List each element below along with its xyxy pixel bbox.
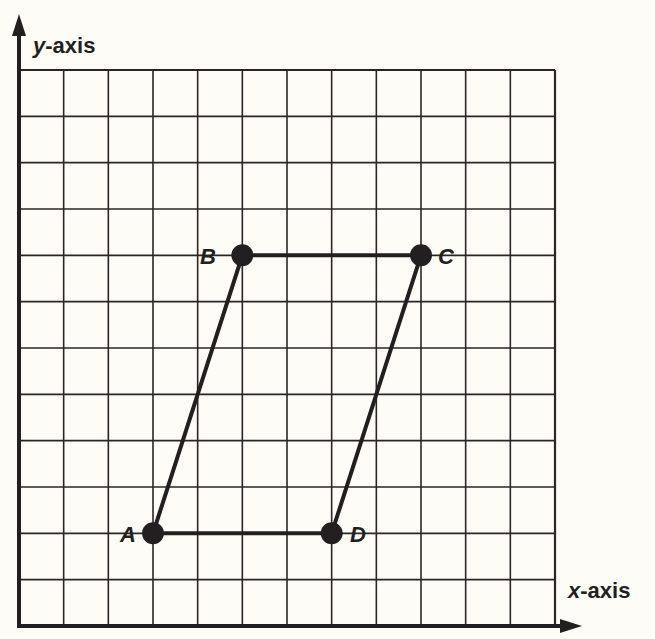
y-axis-label-text: -axis <box>45 33 95 58</box>
point-d-dot <box>321 522 343 544</box>
x-axis <box>17 619 582 633</box>
x-axis-label: x-axis <box>568 578 630 604</box>
y-axis-label-var: y <box>33 33 45 58</box>
x-axis-label-text: -axis <box>580 578 630 603</box>
y-axis-label: y-axis <box>33 33 95 59</box>
point-label-d: D <box>350 522 366 548</box>
grid-lines <box>19 70 555 626</box>
x-axis-label-var: x <box>568 578 580 603</box>
point-label-b: B <box>200 244 216 270</box>
point-c-dot <box>410 244 432 266</box>
x-axis-arrow-icon <box>560 619 582 633</box>
coordinate-grid <box>0 0 655 639</box>
y-axis-arrow-icon <box>12 14 26 36</box>
point-label-a: A <box>120 522 136 548</box>
point-label-c: C <box>438 244 454 270</box>
point-a-dot <box>142 522 164 544</box>
y-axis <box>12 14 26 628</box>
point-b-dot <box>231 244 253 266</box>
